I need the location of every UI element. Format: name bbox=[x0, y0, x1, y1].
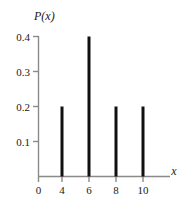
bar-x-6 bbox=[88, 37, 91, 177]
x-tick-label-4: 4 bbox=[59, 184, 65, 196]
bar-x-8 bbox=[115, 107, 118, 177]
x-axis-title: x bbox=[170, 164, 177, 178]
x-tick-label-10: 10 bbox=[138, 184, 150, 196]
stem-plot-chart: 0.4 0.3 0.2 0.1 0 4 6 8 10 P(x) x bbox=[0, 0, 190, 201]
bar-x-10 bbox=[142, 107, 145, 177]
x-tick-label-6: 6 bbox=[86, 184, 92, 196]
bar-x-4 bbox=[61, 107, 64, 177]
y-tick-label-0.1: 0.1 bbox=[16, 136, 30, 148]
y-tick-label-0.3: 0.3 bbox=[16, 66, 30, 78]
y-tick-label-0.4: 0.4 bbox=[16, 31, 30, 43]
y-tick-label-0.2: 0.2 bbox=[16, 101, 30, 113]
y-axis-title: P(x) bbox=[33, 9, 55, 23]
probability-distribution-figure: 0.4 0.3 0.2 0.1 0 4 6 8 10 P(x) x bbox=[0, 0, 190, 201]
x-tick-label-8: 8 bbox=[113, 184, 119, 196]
x-tick-label-0: 0 bbox=[36, 184, 42, 196]
